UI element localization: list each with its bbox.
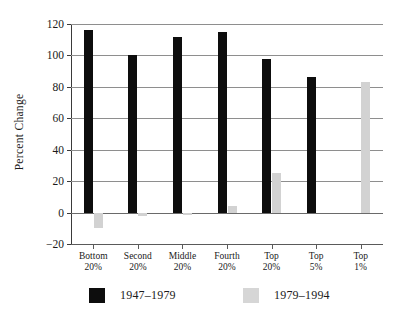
y-tick-mark xyxy=(67,213,71,214)
x-axis: Bottom20%Second20%Middle20%Fourth20%Top2… xyxy=(71,244,383,284)
y-tick-mark xyxy=(67,24,71,25)
bar xyxy=(218,32,227,213)
gridline-80 xyxy=(71,87,383,88)
gridline-20 xyxy=(71,181,383,182)
x-tick-mark xyxy=(138,244,139,249)
gridline-40 xyxy=(71,150,383,151)
bar xyxy=(228,206,237,212)
x-tick-mark xyxy=(361,244,362,249)
chart-legend: 1947–19791979–1994 xyxy=(71,285,383,309)
bar xyxy=(262,59,271,213)
bar xyxy=(138,213,147,216)
y-tick-mark xyxy=(67,150,71,151)
y-tick-label: 100 xyxy=(47,49,64,61)
gridline-120 xyxy=(71,24,383,25)
y-tick-label: 80 xyxy=(53,81,65,93)
legend-label: 1979–1994 xyxy=(274,288,330,303)
y-tick-mark xyxy=(67,181,71,182)
bar xyxy=(173,37,182,213)
y-tick-label: 60 xyxy=(53,112,65,124)
plot-area: −20020406080100120 xyxy=(71,24,383,244)
bar xyxy=(361,82,370,212)
x-tick-mark xyxy=(227,244,228,249)
x-tick-label-line: 1% xyxy=(332,262,390,273)
bar xyxy=(84,30,93,212)
x-tick-mark xyxy=(182,244,183,249)
y-tick-mark xyxy=(67,118,71,119)
bar xyxy=(272,173,281,212)
y-axis-title-text: Percent Change xyxy=(13,94,25,171)
y-tick-label: −20 xyxy=(46,238,64,250)
y-tick-mark xyxy=(67,87,71,88)
bar xyxy=(94,213,103,229)
y-tick-label: 120 xyxy=(47,18,64,30)
y-tick-label: 20 xyxy=(53,175,65,187)
gridline-60 xyxy=(71,118,383,119)
x-tick-label: Top1% xyxy=(332,251,390,273)
bar xyxy=(128,55,137,212)
legend-item[interactable]: 1947–1979 xyxy=(89,285,176,305)
x-tick-mark xyxy=(272,244,273,249)
legend-swatch-icon xyxy=(243,288,259,303)
y-tick-label: 40 xyxy=(53,144,65,156)
y-tick-label: 0 xyxy=(58,207,64,219)
x-tick-mark xyxy=(93,244,94,249)
gridline-0 xyxy=(71,213,383,214)
x-tick-mark xyxy=(316,244,317,249)
legend-swatch-icon xyxy=(89,288,105,303)
legend-item[interactable]: 1979–1994 xyxy=(243,285,330,305)
x-tick-label-line: Top xyxy=(332,251,390,262)
y-tick-mark xyxy=(67,55,71,56)
y-axis-title: Percent Change xyxy=(10,62,28,202)
gridline-100 xyxy=(71,55,383,56)
bar xyxy=(183,213,192,215)
legend-label: 1947–1979 xyxy=(120,288,176,303)
bar xyxy=(307,77,316,212)
chart-figure: Percent Change −20020406080100120 Bottom… xyxy=(0,0,395,318)
